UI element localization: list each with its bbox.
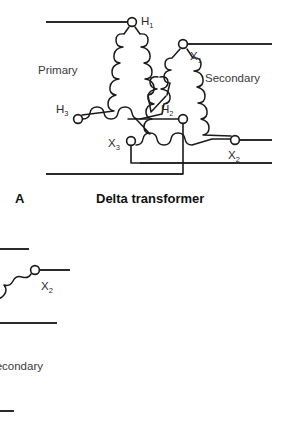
terminal-h2[interactable]	[179, 115, 188, 124]
terminal-x2[interactable]	[31, 266, 40, 275]
terminal-h3[interactable]	[74, 115, 83, 124]
terminal-x2[interactable]	[231, 136, 240, 145]
label-h1: H1	[141, 15, 153, 30]
panel-letter-a: A	[15, 191, 25, 206]
coil-x1-x2	[187, 49, 231, 136]
label-h2: H2	[161, 103, 173, 118]
label-x2: X2	[41, 280, 53, 295]
region-label-primary: Primary	[38, 64, 78, 76]
bus-top-inner	[0, 249, 29, 264]
terminal-x1[interactable]	[179, 40, 188, 49]
wye-schematic: H1 X1 H2 X2 X0 H3 X3 Primary Secondary B…	[0, 224, 306, 448]
wye-bus-group	[0, 232, 70, 411]
caption-delta: Delta transformer	[96, 191, 204, 206]
coil-h1-right	[135, 27, 166, 112]
wye-secondary-windings	[0, 274, 31, 416]
coil-inner-phase	[136, 77, 158, 134]
coil-x2-neutral	[0, 274, 31, 339]
coil-x1-left	[164, 49, 180, 95]
region-label-secondary: Secondary	[205, 72, 260, 84]
coil-h3-bottom	[83, 107, 139, 119]
figure-delta-transformer: H1 X1 H3 H2 X3 X2 Primary Secondary A De…	[0, 0, 306, 224]
wye-label-group: H1 X1 H2 X2 X0 H3 X3	[0, 256, 53, 411]
label-x3: X3	[108, 137, 120, 152]
delta-bus-group	[46, 22, 272, 174]
delta-schematic: H1 X1 H3 H2 X3 X2 Primary Secondary A De…	[0, 0, 306, 224]
figure-wye-transformer: H1 X1 H2 X2 X0 H3 X3 Primary Secondary B…	[0, 224, 306, 448]
terminal-h1[interactable]	[128, 18, 137, 27]
label-x2: X2	[228, 149, 240, 164]
region-label-secondary: Secondary	[0, 360, 43, 372]
delta-primary-windings	[82, 27, 166, 119]
delta-jumper-group	[131, 119, 183, 174]
coil-h1-h3	[82, 27, 129, 115]
label-h3: H3	[56, 103, 68, 118]
terminal-x3[interactable]	[127, 137, 136, 146]
label-x1: X1	[190, 50, 202, 65]
